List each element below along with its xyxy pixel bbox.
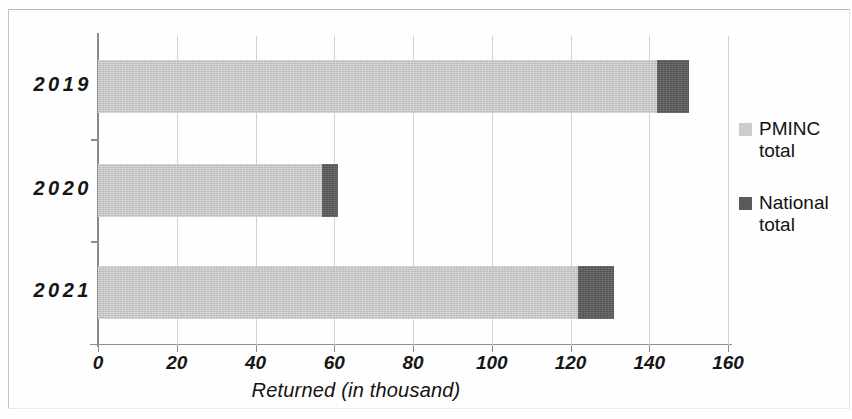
- legend-swatch-icon: [739, 197, 752, 210]
- legend-label: PMINC total: [759, 118, 820, 162]
- bar-segment-pminc: [98, 164, 322, 217]
- x-tick-label: 0: [93, 352, 104, 374]
- x-tick-label: 140: [633, 352, 665, 374]
- x-tick-label: 160: [712, 352, 744, 374]
- y-tick: [91, 139, 98, 141]
- legend-entry: National total: [739, 192, 849, 236]
- y-tick: [91, 241, 98, 243]
- bar-segment-national: [322, 164, 338, 217]
- bar-segment-national: [578, 266, 613, 319]
- x-axis-title-text: Returned (in thousand): [252, 379, 461, 402]
- legend-entry: PMINC total: [739, 118, 849, 162]
- bar-group: [98, 266, 614, 319]
- legend-label: National total: [759, 192, 829, 236]
- plot-area: [98, 36, 728, 345]
- bar-segment-national: [657, 60, 689, 113]
- x-tick-label: 80: [402, 352, 423, 374]
- x-tick-label: 20: [166, 352, 187, 374]
- legend-swatch-icon: [739, 123, 752, 136]
- x-tick: [98, 345, 99, 352]
- bar-segment-pminc: [98, 266, 578, 319]
- x-tick: [177, 345, 178, 352]
- x-tick-label: 40: [245, 352, 266, 374]
- x-tick: [413, 345, 414, 352]
- x-tick-label: 120: [555, 352, 587, 374]
- chart-legend: PMINC totalNational total: [739, 118, 849, 266]
- bar-group: [98, 60, 689, 113]
- x-tick: [571, 345, 572, 352]
- x-axis-title: Returned (in thousand): [0, 379, 852, 402]
- x-tick: [256, 345, 257, 352]
- y-tick-label-2019: 2019: [34, 73, 93, 96]
- y-tick-label-2020: 2020: [34, 177, 93, 200]
- x-tick: [728, 345, 729, 352]
- x-gridline: [728, 36, 729, 345]
- x-tick-label: 60: [324, 352, 345, 374]
- x-tick: [334, 345, 335, 352]
- bar-group: [98, 164, 338, 217]
- bar-segment-pminc: [98, 60, 657, 113]
- x-tick: [649, 345, 650, 352]
- x-tick-label: 100: [476, 352, 508, 374]
- x-tick: [492, 345, 493, 352]
- y-tick-label-2021: 2021: [34, 279, 93, 302]
- chart-figure: 201920202021 020406080100120140160 Retur…: [0, 0, 852, 419]
